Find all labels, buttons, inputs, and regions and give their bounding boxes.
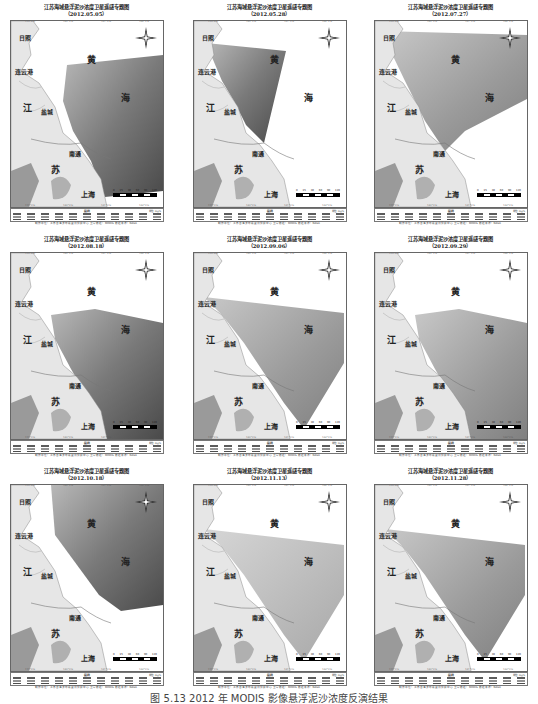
legend-swatch <box>125 445 133 452</box>
panel-date: （2012.11.13） <box>185 475 353 482</box>
longitude-ticks-top: 119°0'E120°0'E121°0'E122°0'E <box>375 252 527 256</box>
map-frame: 119°0'E120°0'E121°0'E122°0'E 119°0'E120°… <box>193 252 347 440</box>
label-jiang: 江 <box>23 333 32 346</box>
legend-swatch <box>13 213 21 220</box>
legend-swatch <box>69 213 77 220</box>
legend-swatch <box>503 677 511 684</box>
legend-swatch <box>433 213 441 220</box>
label-hai: 海 <box>304 323 313 336</box>
legend-swatch <box>125 213 133 220</box>
label-hai: 海 <box>304 91 313 104</box>
scale-numbers: 015306090120 <box>113 421 157 424</box>
label-hai: 海 <box>121 91 130 104</box>
panel-note: 制作单位：江苏省海洋环境监测预报中心 卫星数据：MODIS 数据来源：NASA <box>193 221 345 225</box>
map-panel-4: 江苏海域悬浮泥沙浓度卫星遥感专题图 （2012.08.18） <box>2 236 170 462</box>
legend-swatch <box>503 445 511 452</box>
panel-note: 制作单位：江苏省海洋环境监测预报中心 卫星数据：MODIS 数据来源：NASA <box>193 453 345 457</box>
label-jiang: 江 <box>387 333 396 346</box>
panel-date: （2012.05.05） <box>2 11 170 18</box>
panel-date: （2012.07.27） <box>366 11 534 18</box>
figure-caption: 图 5.13 2012 年 MODIS 影像悬浮泥沙浓度反演结果 <box>0 690 538 704</box>
label-lianyungang: 连云港 <box>15 67 33 76</box>
panel-note: 制作单位：江苏省海洋环境监测预报中心 卫星数据：MODIS 数据来源：NASA <box>374 685 526 689</box>
label-yancheng: 盐城 <box>405 571 417 580</box>
label-nantong: 南通 <box>252 381 264 390</box>
legend-swatch <box>125 677 133 684</box>
legend-swatch <box>97 445 105 452</box>
legend-swatch <box>210 677 218 684</box>
map-panel-6: 江苏海域悬浮泥沙浓度卫星遥感专题图 （2012.09.29） <box>366 236 534 462</box>
legend-swatch <box>336 677 344 684</box>
legend-box: 图 例 单位：mg/L <box>193 440 347 454</box>
label-su: 苏 <box>415 163 424 176</box>
legend-swatch <box>27 213 35 220</box>
label-rizhao: 日照 <box>383 33 395 42</box>
legend-swatch <box>69 677 77 684</box>
longitude-ticks-top: 119°0'E120°0'E121°0'E122°0'E <box>11 252 163 256</box>
label-su: 苏 <box>234 163 243 176</box>
legend-swatch <box>139 677 147 684</box>
legend-swatch <box>41 445 49 452</box>
legend-box: 图 例 单位：mg/L <box>10 208 164 222</box>
legend-swatch <box>111 677 119 684</box>
legend-swatch <box>503 213 511 220</box>
legend-swatch <box>27 445 35 452</box>
legend-swatch <box>196 213 204 220</box>
legend-swatch <box>238 213 246 220</box>
label-lianyungang: 连云港 <box>379 531 397 540</box>
scale-numbers: 015306090120 <box>477 653 521 656</box>
label-rizhao: 日照 <box>202 265 214 274</box>
scale-numbers: 015306090120 <box>296 421 340 424</box>
legend-swatch <box>280 213 288 220</box>
scale-bar: 015306090120 <box>477 421 521 429</box>
legend-swatch <box>196 445 204 452</box>
label-rizhao: 日照 <box>19 265 31 274</box>
scale-bar: 015306090120 <box>113 653 157 661</box>
scale-numbers: 015306090120 <box>477 421 521 424</box>
scale-bar: 015306090120 <box>296 653 340 661</box>
scale-numbers: 015306090120 <box>477 189 521 192</box>
legend-swatch <box>377 677 385 684</box>
label-shanghai: 上海 <box>264 653 278 663</box>
label-rizhao: 日照 <box>202 33 214 42</box>
label-yancheng: 盐城 <box>224 339 236 348</box>
legend-swatch <box>419 677 427 684</box>
map-panel-8: 江苏海域悬浮泥沙浓度卫星遥感专题图 （2012.11.13） <box>185 468 353 694</box>
label-nantong: 南通 <box>252 613 264 622</box>
legend-swatch <box>13 677 21 684</box>
scale-bar: 015306090120 <box>477 653 521 661</box>
legend-swatch <box>405 445 413 452</box>
north-arrow-icon <box>499 491 521 513</box>
map-panel-7: 江苏海域悬浮泥沙浓度卫星遥感专题图 （2012.10.18） <box>2 468 170 694</box>
label-huang: 黄 <box>87 285 96 298</box>
scale-bar: 015306090120 <box>296 189 340 197</box>
label-nantong: 南通 <box>69 149 81 158</box>
label-su: 苏 <box>415 627 424 640</box>
legend-swatch <box>517 445 525 452</box>
label-huang: 黄 <box>270 53 279 66</box>
longitude-ticks-top: 119°0'E120°0'E121°0'E122°0'E <box>11 20 163 24</box>
label-yancheng: 盐城 <box>41 339 53 348</box>
label-lianyungang: 连云港 <box>15 531 33 540</box>
legend-swatch <box>336 445 344 452</box>
label-yancheng: 盐城 <box>405 107 417 116</box>
label-huang: 黄 <box>451 53 460 66</box>
longitude-ticks-top: 119°0'E120°0'E121°0'E122°0'E <box>194 20 346 24</box>
legend-swatch <box>238 677 246 684</box>
label-jiang: 江 <box>387 101 396 114</box>
panel-date: （2012.05.28） <box>185 11 353 18</box>
legend-swatch <box>308 677 316 684</box>
legend-swatch <box>322 213 330 220</box>
legend-swatch <box>391 213 399 220</box>
longitude-ticks-top: 119°0'E120°0'E121°0'E122°0'E <box>11 484 163 488</box>
label-rizhao: 日照 <box>202 497 214 506</box>
scale-bar: 015306090120 <box>296 421 340 429</box>
legend-swatch <box>111 445 119 452</box>
label-shanghai: 上海 <box>81 653 95 663</box>
legend-swatch <box>139 445 147 452</box>
map-panel-2: 江苏海域悬浮泥沙浓度卫星遥感专题图 （2012.05.28） <box>185 4 353 230</box>
legend-swatch <box>377 213 385 220</box>
panel-note: 制作单位：江苏省海洋环境监测预报中心 卫星数据：MODIS 数据来源：NASA <box>374 221 526 225</box>
scale-numbers: 015306090120 <box>113 653 157 656</box>
legend-swatch <box>419 445 427 452</box>
